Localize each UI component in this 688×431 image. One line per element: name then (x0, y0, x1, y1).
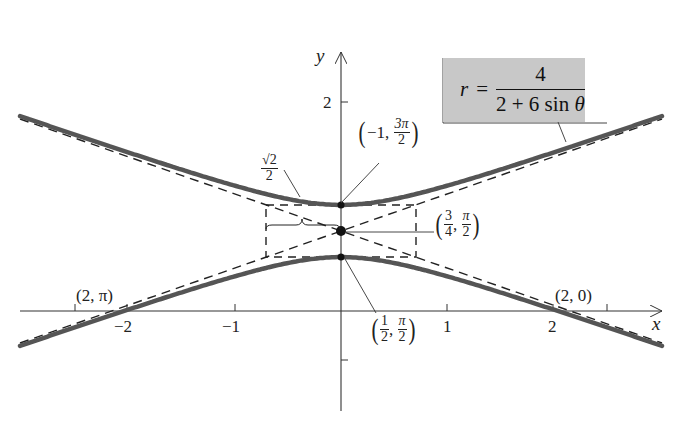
top-vertex-r: −1, (367, 123, 389, 142)
bottom-theta-den: 2 (398, 330, 407, 345)
paren-open: ( (436, 209, 443, 239)
paren-close: ) (408, 314, 415, 344)
x-tick-label-neg2: −2 (114, 318, 132, 335)
bottom-r-den: 2 (380, 330, 389, 345)
equation-numerator: 4 (496, 62, 585, 90)
bottom-theta-num: π (398, 314, 407, 330)
half-width-brace (266, 219, 340, 229)
equation-lhs: r (460, 77, 468, 102)
x-tick-label-neg1: −1 (222, 318, 240, 335)
center-r-den: 4 (444, 225, 453, 240)
half-width-num: √2 (261, 153, 278, 169)
y-axis-label: y (316, 46, 324, 65)
right-intercept-label: (2, 0) (555, 287, 592, 304)
top-vertex-theta-num: 3π (394, 117, 410, 133)
equation-fraction: 4 2 + 6 sin θ (496, 62, 585, 117)
x-tick-label-1: 1 (443, 318, 452, 335)
half-width-den: 2 (261, 169, 278, 184)
paren-close: ) (411, 117, 418, 147)
theta-symbol: θ (574, 92, 584, 116)
paren-open: ( (372, 314, 379, 344)
x-axis-label: x (652, 314, 660, 333)
equation-equals: = (476, 77, 488, 102)
paren-open: ( (359, 117, 366, 147)
bottom-vertex-label: (12, π2) (370, 314, 417, 344)
polar-equation: r = 4 2 + 6 sin θ (460, 62, 585, 117)
center-point (336, 226, 346, 236)
center-label: (34, π2) (434, 209, 481, 239)
x-tick-label-2: 2 (548, 318, 557, 335)
bottom-r-num: 1 (380, 314, 389, 330)
top-vertex-theta-den: 2 (394, 133, 410, 148)
top-vertex-label: (−1, 3π2) (357, 117, 420, 147)
denominator-text: 2 + 6 sin (496, 92, 574, 116)
paren-close: ) (472, 209, 479, 239)
center-r-num: 3 (444, 209, 453, 225)
half-width-label: √22 (261, 153, 278, 183)
left-intercept-label: (2, π) (76, 287, 113, 304)
center-theta-den: 2 (462, 225, 471, 240)
equation-denominator: 2 + 6 sin θ (496, 90, 585, 117)
y-tick-label-2: 2 (323, 94, 332, 111)
center-theta-num: π (462, 209, 471, 225)
bottom-vertex-point (338, 254, 345, 261)
leader-lines (284, 102, 566, 313)
